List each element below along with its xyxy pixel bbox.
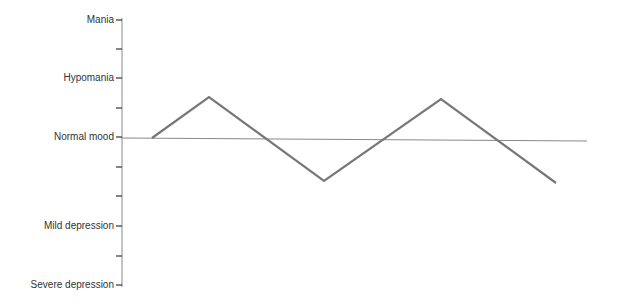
y-ticks xyxy=(116,20,122,285)
baseline xyxy=(122,138,587,141)
label-hypomania: Hypomania xyxy=(63,72,114,84)
mood-line xyxy=(152,97,556,183)
label-mild-depression: Mild depression xyxy=(44,220,114,232)
mood-chart xyxy=(0,0,617,308)
label-normal-mood: Normal mood xyxy=(54,131,114,143)
label-severe-depression: Severe depression xyxy=(31,279,114,291)
label-mania: Mania xyxy=(87,14,114,26)
